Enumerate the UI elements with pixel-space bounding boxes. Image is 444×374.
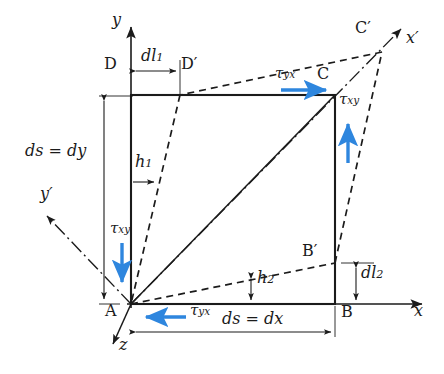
point-label-C-prime: C′	[355, 20, 371, 36]
dimension-label-ds-dy: ds = dy	[25, 143, 86, 159]
dimension-label-dl1: dl1	[141, 48, 163, 64]
axis-label-y: y	[112, 12, 121, 28]
point-label-D-prime: D′	[181, 56, 197, 72]
dimension-label-h1: h1	[135, 154, 152, 170]
axis-label-y-prime: y′	[40, 186, 53, 202]
axis-group	[113, 27, 422, 344]
deformed-edge-Bprime-Cprime	[335, 52, 382, 263]
stress-label-tau-xy-right: τxy	[339, 92, 359, 107]
stress-label-tau-xy-left: τxy	[110, 221, 130, 236]
dimension-label-dl2: dl2	[361, 265, 383, 281]
stress-label-tau-yx-bottom: τyx	[190, 303, 210, 318]
axis-label-z: z	[119, 337, 127, 353]
point-label-B-prime: B′	[302, 243, 317, 259]
element-diagonal	[131, 95, 335, 304]
point-label-B: B	[341, 304, 353, 320]
point-label-A: A	[105, 303, 117, 319]
point-label-D: D	[104, 56, 117, 72]
axis-label-x-prime: x′	[406, 30, 419, 46]
deformed-edge-Dprime-A	[131, 95, 180, 304]
shear-stress-arrows	[122, 90, 348, 317]
deformed-edge-A-Bprime	[131, 263, 335, 304]
point-label-C: C	[317, 66, 329, 82]
dimension-label-h2: h2	[257, 270, 274, 286]
diagram-canvas: y x z x′ y′ A B C D B′ C′ D′ τxy τxy τyx…	[0, 0, 444, 374]
axis-label-x: x	[414, 303, 423, 319]
diagonal-A-C	[131, 95, 335, 304]
dimension-label-ds-dx: ds = dx	[222, 311, 283, 327]
stress-label-tau-yx-top: τyx	[275, 66, 295, 81]
